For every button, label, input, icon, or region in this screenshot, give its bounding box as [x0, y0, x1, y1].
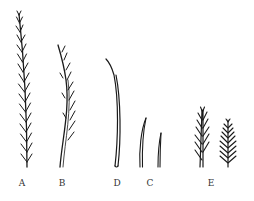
label-b: B	[59, 178, 66, 188]
label-c: C	[147, 178, 154, 188]
label-e: E	[208, 178, 215, 188]
specimen-e	[195, 107, 236, 167]
label-d: D	[113, 178, 120, 188]
specimen-c	[140, 118, 161, 167]
specimen-a	[16, 11, 32, 167]
figure-illustration	[0, 0, 254, 201]
label-a: A	[19, 178, 26, 188]
specimen-b	[58, 45, 75, 167]
specimen-d	[106, 59, 120, 167]
